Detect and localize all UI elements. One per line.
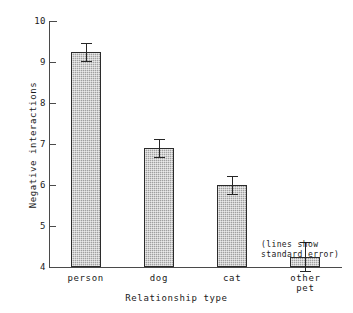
y-tick-mark [50, 226, 56, 227]
x-axis-title: Relationship type [0, 293, 353, 303]
standard-error-annotation: (lines show standard error) [261, 240, 339, 260]
y-tick-mark [50, 62, 56, 63]
bar [144, 148, 174, 267]
error-bar-line [159, 139, 160, 157]
y-tick-mark [50, 21, 57, 22]
error-bar-cap-lower [154, 157, 165, 158]
y-tick-label: 6 [28, 180, 46, 190]
y-tick-label: 7 [28, 139, 46, 149]
y-tick-mark [50, 267, 56, 268]
y-tick-label-text: 10 [30, 16, 46, 26]
error-bar-cap-lower [300, 271, 311, 272]
y-tick-label-text: 6 [30, 180, 46, 190]
y-tick-label: 10 [28, 16, 46, 26]
x-category-label: person [46, 273, 126, 283]
bar [217, 185, 247, 267]
y-tick-mark [50, 185, 56, 186]
x-category-label: other pet [265, 273, 345, 293]
error-bar-cap-lower [227, 194, 238, 195]
y-tick-label: 8 [28, 98, 46, 108]
error-bar-line [86, 43, 87, 61]
error-bar-line [232, 176, 233, 194]
y-tick-mark [50, 144, 56, 145]
x-category-label: cat [192, 273, 272, 283]
y-tick-label: 4 [28, 262, 46, 272]
y-tick-label-text: 4 [30, 262, 46, 272]
y-tick-label-text: 9 [30, 57, 46, 67]
bar-chart: Negative interactions 10987654 persondog… [0, 0, 353, 313]
y-tick-label-text: 7 [30, 139, 46, 149]
y-tick-label-text: 5 [30, 221, 46, 231]
x-category-label: dog [119, 273, 199, 283]
x-axis-line [49, 267, 342, 268]
y-tick-label: 5 [28, 221, 46, 231]
y-tick-label: 9 [28, 57, 46, 67]
error-bar-cap-lower [81, 61, 92, 62]
y-tick-label-text: 8 [30, 98, 46, 108]
error-bar-cap-upper [81, 43, 92, 44]
error-bar-cap-upper [227, 176, 238, 177]
bar [71, 52, 101, 267]
y-tick-mark [50, 103, 56, 104]
error-bar-cap-upper [154, 139, 165, 140]
